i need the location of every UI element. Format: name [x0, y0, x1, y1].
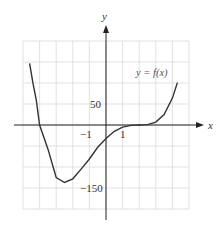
function-curve	[30, 63, 178, 182]
x-axis-arrow-icon	[196, 122, 204, 128]
function-label: y = f(x)	[135, 67, 168, 79]
x-tick-neg1: −1	[80, 128, 92, 140]
y-axis-arrow-icon	[103, 25, 109, 33]
function-graph: x y 50 −150 −1 1 y = f(x)	[0, 0, 220, 226]
y-tick-neg150: −150	[80, 182, 103, 194]
x-tick-1: 1	[120, 128, 126, 140]
x-axis-label: x	[207, 119, 213, 131]
y-tick-50: 50	[90, 98, 102, 110]
y-axis-label: y	[101, 10, 107, 22]
